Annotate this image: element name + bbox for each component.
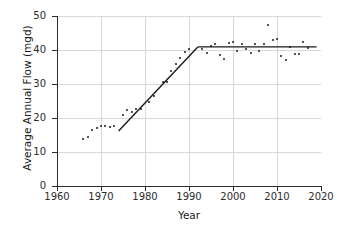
- data-point: [263, 43, 265, 45]
- x-tick-label: 1980: [123, 192, 167, 202]
- x-axis-line: [57, 186, 322, 187]
- data-point: [100, 125, 102, 127]
- gridline-vertical: [101, 16, 102, 186]
- x-axis-title: Year: [57, 209, 321, 221]
- data-point: [228, 42, 230, 44]
- gridline-vertical: [277, 16, 278, 186]
- y-axis-line: [57, 16, 58, 186]
- data-point: [289, 46, 291, 48]
- data-point: [206, 52, 208, 54]
- y-axis-title: Average Annual Flow (mgd): [21, 13, 33, 183]
- data-point: [122, 114, 124, 116]
- gridline-vertical: [189, 16, 190, 186]
- data-point: [250, 52, 252, 54]
- flow-vs-year-chart: 01020304050 1960197019801990200020102020…: [0, 0, 349, 232]
- x-tick-label: 1990: [167, 192, 211, 202]
- data-point: [285, 59, 287, 61]
- x-tick-label: 2010: [255, 192, 299, 202]
- data-point: [245, 48, 247, 50]
- x-tick-label: 1960: [35, 192, 79, 202]
- data-point: [241, 43, 243, 45]
- data-point: [91, 129, 93, 131]
- data-point: [294, 53, 296, 55]
- gridline-vertical: [145, 16, 146, 186]
- data-point: [307, 47, 309, 49]
- data-point: [267, 24, 269, 26]
- data-point: [140, 108, 142, 110]
- data-point: [96, 127, 98, 129]
- data-point: [210, 45, 212, 47]
- x-tick-label: 1970: [79, 192, 123, 202]
- x-tick-label: 2000: [211, 192, 255, 202]
- data-point: [184, 51, 186, 53]
- data-point: [162, 81, 164, 83]
- data-point: [109, 126, 111, 128]
- data-point: [219, 54, 221, 56]
- x-tick-label: 2020: [299, 192, 343, 202]
- data-point: [175, 63, 177, 65]
- data-point: [87, 136, 89, 138]
